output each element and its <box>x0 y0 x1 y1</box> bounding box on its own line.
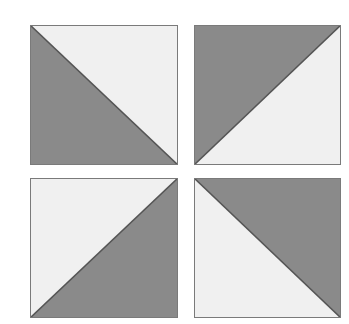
tile-top-right <box>194 25 341 165</box>
tile-top-left-graphic <box>30 25 178 165</box>
tile-bottom-right-graphic <box>194 178 341 318</box>
tile-bottom-left <box>30 178 178 318</box>
figure-canvas <box>0 0 349 324</box>
tile-bottom-left-graphic <box>30 178 178 318</box>
tile-bottom-right <box>194 178 341 318</box>
tile-top-right-graphic <box>194 25 341 165</box>
tile-top-left <box>30 25 178 165</box>
